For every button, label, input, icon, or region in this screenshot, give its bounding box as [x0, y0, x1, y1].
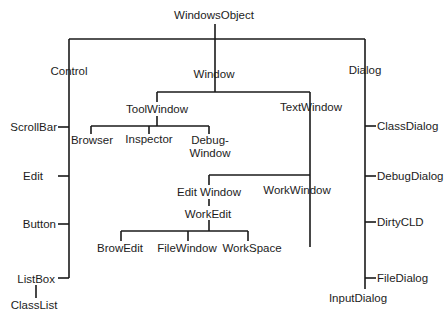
- node-file-window: FileWindow: [157, 242, 216, 255]
- node-debug-dialog: DebugDialog: [377, 170, 444, 183]
- node-edit-window: Edit Window: [177, 186, 241, 199]
- node-window: Window: [194, 68, 235, 81]
- node-class-list: ClassList: [11, 299, 58, 312]
- node-work-window: WorkWindow: [263, 184, 331, 197]
- node-list-box: ListBox: [17, 273, 55, 286]
- node-input-dialog: InputDialog: [329, 292, 387, 305]
- node-work-space: WorkSpace: [222, 242, 281, 255]
- node-text-window: TextWindow: [280, 101, 342, 114]
- node-debug-window-line2: Window: [190, 147, 231, 160]
- node-dialog: Dialog: [349, 64, 382, 77]
- node-file-dialog: FileDialog: [377, 272, 428, 285]
- node-tool-window: ToolWindow: [126, 103, 188, 116]
- node-control: Control: [50, 65, 87, 78]
- node-button: Button: [23, 218, 56, 231]
- node-edit: Edit: [23, 170, 43, 183]
- class-hierarchy-diagram: WindowsObject Control Window Dialog Scro…: [0, 0, 446, 320]
- node-work-edit: WorkEdit: [185, 208, 231, 221]
- node-inspector: Inspector: [125, 133, 172, 146]
- node-class-dialog: ClassDialog: [377, 120, 438, 133]
- node-browser: Browser: [71, 134, 113, 147]
- node-dirty-cld: DirtyCLD: [377, 216, 424, 229]
- node-scroll-bar: ScrollBar: [10, 121, 57, 134]
- node-windows-object: WindowsObject: [174, 9, 254, 22]
- node-brow-edit: BrowEdit: [97, 242, 143, 255]
- node-debug-window-line1: Debug-: [191, 134, 229, 147]
